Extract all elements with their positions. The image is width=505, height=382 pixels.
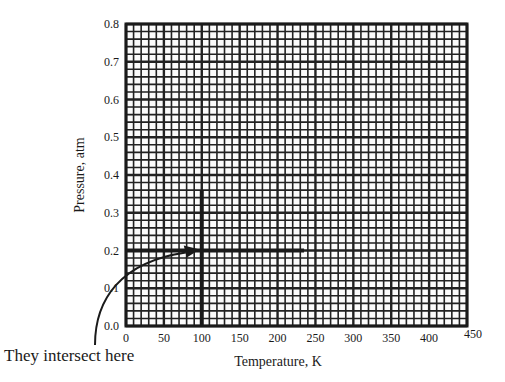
y-tick-label: 0.8	[104, 17, 119, 31]
x-axis-ticks: 050100150200250300350400450	[123, 327, 482, 345]
x-tick-label: 100	[193, 331, 211, 345]
y-tick-label: 0.4	[104, 168, 119, 182]
x-tick-label: 200	[269, 331, 287, 345]
y-tick-label: 0.0	[104, 319, 119, 333]
x-tick-label: 300	[344, 331, 362, 345]
y-tick-label: 0.7	[104, 55, 119, 69]
y-tick-label: 0.3	[104, 206, 119, 220]
y-axis-label: Pressure, atm	[72, 137, 87, 213]
x-tick-label: 150	[231, 331, 249, 345]
x-tick-label: 50	[158, 331, 170, 345]
x-tick-label: 250	[306, 331, 324, 345]
x-tick-label: 400	[420, 331, 438, 345]
y-tick-label: 0.6	[104, 93, 119, 107]
annotation-text: They intersect here	[4, 346, 134, 366]
x-tick-label: 350	[382, 331, 400, 345]
x-tick-label: 450	[464, 327, 482, 341]
chart: 050100150200250300350400450 0.00.10.20.3…	[0, 0, 505, 382]
x-axis-label: Temperature, K	[234, 354, 322, 369]
y-tick-label: 0.2	[104, 244, 119, 258]
x-tick-label: 0	[123, 331, 129, 345]
graph-paper-grid	[126, 24, 467, 326]
y-tick-label: 0.5	[104, 130, 119, 144]
